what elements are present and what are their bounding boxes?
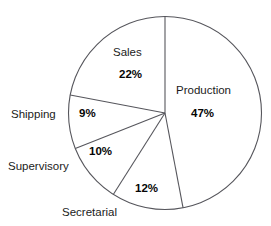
slice-label-production: Production bbox=[176, 85, 231, 97]
slice-value-production: 47% bbox=[191, 108, 214, 120]
slice-value-shipping: 9% bbox=[79, 108, 96, 120]
slice-value-supervisory: 10% bbox=[89, 146, 112, 158]
pie-chart-figure: Sales 22% Production 47% Shipping 9% Sup… bbox=[0, 0, 271, 226]
slice-label-sales: Sales bbox=[113, 47, 142, 59]
slice-label-shipping: Shipping bbox=[11, 109, 56, 121]
divider-production-secretarial bbox=[165, 113, 183, 208]
slice-label-secretarial: Secretarial bbox=[62, 207, 117, 219]
slice-label-supervisory: Supervisory bbox=[8, 161, 69, 173]
slice-value-sales: 22% bbox=[119, 69, 142, 81]
slice-value-secretarial: 12% bbox=[135, 183, 158, 195]
